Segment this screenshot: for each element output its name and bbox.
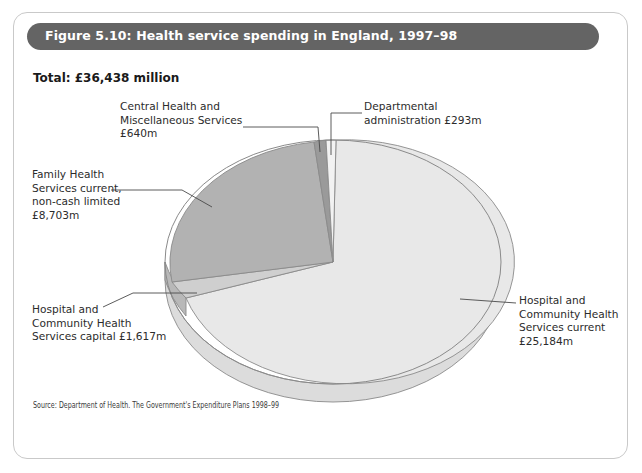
source-note: Source: Department of Health. The Govern… (33, 400, 279, 410)
callout-family-health-services: Family Health Services current, non-cash… (32, 168, 122, 222)
callout-hospital-current: Hospital and Community Health Services c… (519, 294, 618, 348)
callout-hospital-capital: Hospital and Community Health Services c… (32, 303, 166, 344)
callout-central-health: Central Health and Miscellaneous Service… (120, 100, 242, 141)
figure-title-bar: Figure 5.10: Health service spending in … (27, 23, 599, 50)
total-label: Total: £36,438 million (33, 71, 179, 85)
callout-departmental-administration: Departmental administration £293m (364, 100, 482, 127)
figure-title: Figure 5.10: Health service spending in … (45, 28, 457, 43)
